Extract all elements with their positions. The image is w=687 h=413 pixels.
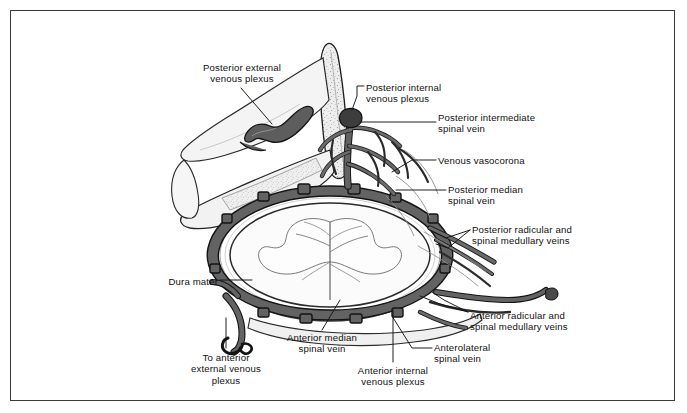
label-line: Posterior intermediate bbox=[438, 112, 578, 123]
label-anterior-median-spinal-vein: Anterior medianspinal vein bbox=[272, 332, 372, 355]
label-to-anterior-external-venous-plexus: To anteriorexternal venousplexus bbox=[178, 352, 274, 386]
label-dura-mater: Dura mater bbox=[156, 276, 218, 287]
spinal-cord bbox=[230, 203, 430, 307]
leader-posterior-internal-venous-plexus bbox=[352, 86, 364, 110]
label-posterior-median-spinal-vein: Posterior medianspinal vein bbox=[448, 184, 558, 207]
label-line: spinal medullary veins bbox=[472, 235, 620, 246]
label-line: plexus bbox=[178, 375, 274, 386]
label-anterior-internal-venous-plexus: Anterior internalvenous plexus bbox=[340, 365, 446, 388]
anterior-radicular-veins bbox=[430, 288, 558, 313]
label-posterior-external-venous-plexus: Posterior externalvenous plexus bbox=[186, 62, 298, 85]
label-posterior-internal-venous-plexus: Posterior internalvenous plexus bbox=[366, 82, 481, 105]
label-venous-vasocorona: Venous vasocorona bbox=[438, 155, 563, 166]
label-anterolateral-spinal-vein: Anterolateralspinal vein bbox=[434, 342, 524, 365]
label-line: venous plexus bbox=[186, 73, 298, 84]
label-posterior-radicular-and-spinal-medullary-veins: Posterior radicular andspinal medullary … bbox=[472, 224, 620, 247]
label-line: spinal vein bbox=[434, 353, 524, 364]
label-line: Venous vasocorona bbox=[438, 155, 563, 166]
label-posterior-intermediate-spinal-vein: Posterior intermediatespinal vein bbox=[438, 112, 578, 135]
label-line: Posterior internal bbox=[366, 82, 481, 93]
label-anterior-radicular-and-spinal-medullary-veins: Anterior radicular andspinal medullary v… bbox=[470, 310, 618, 333]
anatomy-figure: Posterior externalvenous plexusPosterior… bbox=[0, 0, 687, 413]
label-line: venous plexus bbox=[366, 93, 481, 104]
label-line: spinal vein bbox=[448, 195, 558, 206]
label-line: spinal vein bbox=[438, 123, 578, 134]
label-line: Anterior median bbox=[272, 332, 372, 343]
label-line: Posterior median bbox=[448, 184, 558, 195]
anterolateral-spinal-vein bbox=[420, 312, 466, 328]
label-line: Dura mater bbox=[156, 276, 218, 287]
label-line: Anterolateral bbox=[434, 342, 524, 353]
label-line: Anterior internal bbox=[340, 365, 446, 376]
label-line: To anterior bbox=[178, 352, 274, 363]
label-line: spinal medullary veins bbox=[470, 321, 618, 332]
label-line: Posterior external bbox=[186, 62, 298, 73]
label-line: Anterior radicular and bbox=[470, 310, 618, 321]
posterior-internal-plexus-node bbox=[340, 108, 363, 127]
label-line: external venous bbox=[178, 363, 274, 374]
label-line: Posterior radicular and bbox=[472, 224, 620, 235]
label-line: venous plexus bbox=[340, 376, 446, 387]
transverse-process-left bbox=[172, 160, 199, 218]
label-line: spinal vein bbox=[272, 343, 372, 354]
